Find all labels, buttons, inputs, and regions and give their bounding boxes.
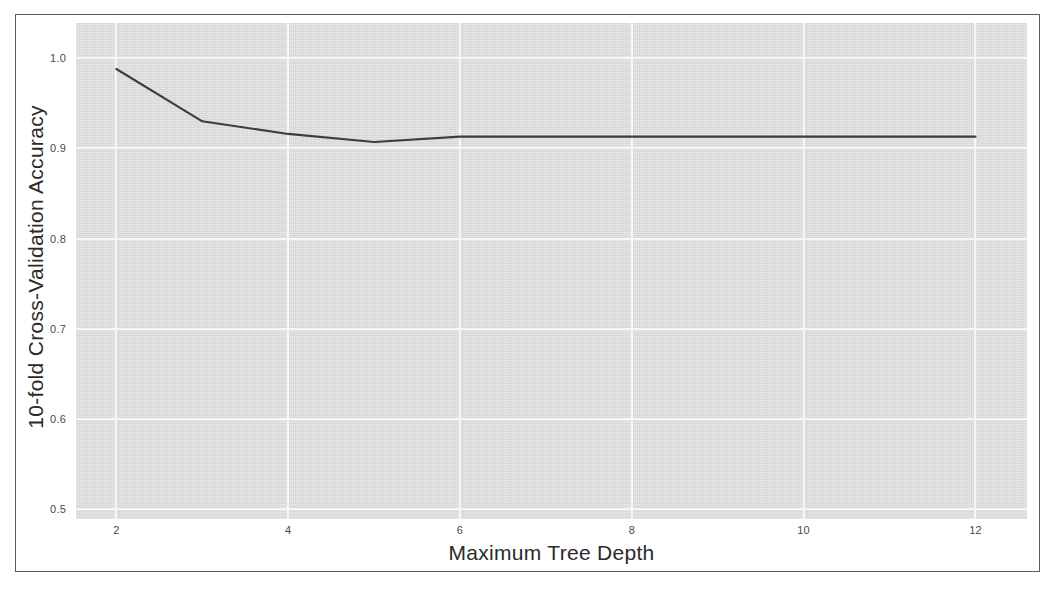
x-axis-label: Maximum Tree Depth bbox=[76, 541, 1027, 565]
x-tick-label: 4 bbox=[268, 524, 308, 536]
y-tick-label: 0.8 bbox=[6, 233, 66, 245]
y-axis-tick-labels: 0.50.60.70.80.91.0 bbox=[0, 23, 66, 519]
y-tick-label: 0.9 bbox=[6, 142, 66, 154]
x-tick-label: 6 bbox=[440, 524, 480, 536]
x-tick-label: 12 bbox=[955, 524, 995, 536]
y-tick-label: 0.5 bbox=[6, 503, 66, 515]
y-tick-label: 1.0 bbox=[6, 52, 66, 64]
x-axis-tick-labels: 24681012 bbox=[76, 524, 1027, 542]
x-tick-label: 10 bbox=[784, 524, 824, 536]
y-tick-label: 0.7 bbox=[6, 323, 66, 335]
x-tick-label: 8 bbox=[612, 524, 652, 536]
plot-area bbox=[76, 23, 1027, 519]
y-tick-label: 0.6 bbox=[6, 413, 66, 425]
line-series bbox=[76, 23, 1027, 519]
x-tick-label: 2 bbox=[96, 524, 136, 536]
figure: 10-fold Cross-Validation Accuracy 0.50.6… bbox=[0, 0, 1063, 596]
